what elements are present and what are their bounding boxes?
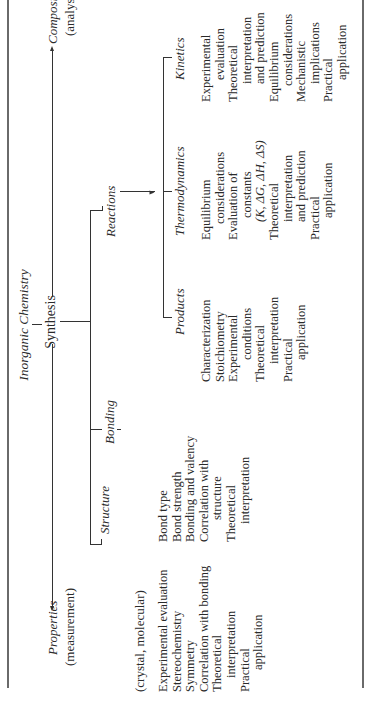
list-item-cont: considerations — [282, 12, 296, 102]
thermodynamics-label: Thermodynamics — [172, 144, 187, 238]
list-item: Symmetry — [184, 566, 198, 692]
list-item: Theoretical — [254, 297, 268, 382]
list-item: Stoichiometry — [214, 297, 228, 382]
list-item: Correlation with bonding — [198, 566, 212, 692]
list-item: Equilibrium — [268, 12, 282, 102]
products-label: Products — [172, 287, 187, 337]
list-item-cont: conditions — [241, 297, 255, 382]
structure-sub: (crystal, molecular) — [132, 590, 147, 692]
list-item: Stereochemistry — [171, 566, 185, 692]
properties-label: Properties — [45, 601, 60, 655]
products-list: Characterization Stoichiometry Experimen… — [200, 297, 309, 382]
structure-label: Structure — [97, 486, 112, 534]
properties-connector — [52, 344, 53, 606]
bonding-label: Bonding — [102, 398, 117, 446]
list-item: Theoretical — [225, 436, 239, 542]
list-item: Bond strength — [171, 436, 185, 542]
list-item: Bond type — [157, 436, 171, 542]
list-item-cont: and prediction — [254, 12, 268, 102]
list-item: Evaluation of — [227, 140, 241, 240]
reactions-arrow-icon — [150, 191, 155, 195]
list-item-cont: interpretation — [241, 12, 255, 102]
top-rule — [7, 0, 9, 688]
list-item: Equilibrium — [200, 140, 214, 240]
root-label: Inorganic Chemistry — [16, 269, 31, 381]
list-item: Practical — [282, 297, 296, 382]
list-item-cont: application — [322, 140, 336, 240]
list-item-cont: interpretation — [225, 566, 239, 692]
list-item: Practical — [322, 12, 336, 102]
list-item-cont: structure — [211, 436, 225, 542]
list-item: Experimental evaluation — [157, 566, 171, 692]
list-item-cont: interpretation — [239, 436, 253, 542]
list-item: Theoretical — [211, 566, 225, 692]
reactions-spine — [163, 58, 164, 318]
composition-connector — [52, 50, 53, 297]
list-item-cont: evaluation — [214, 12, 228, 102]
list-item-cont: interpretation — [282, 140, 296, 240]
list-item: Mechanistic — [295, 12, 309, 102]
list-item: Bonding and valency — [184, 436, 198, 542]
list-item: Experimental — [227, 297, 241, 382]
list-item-cont: interpretation — [268, 297, 282, 382]
kinetics-label: Kinetics — [172, 35, 187, 82]
list-item: Practical — [239, 566, 253, 692]
reactions-label: Reactions — [103, 186, 118, 237]
structure-tick — [101, 539, 102, 545]
kinetics-list: Experimental evaluation Theoretical inte… — [200, 12, 350, 102]
list-item-cont: (K, ΔG, ΔH, ΔS) — [254, 140, 268, 240]
composition-label: Composition — [45, 0, 60, 44]
list-item: Characterization — [200, 297, 214, 382]
diagram-page: Inorganic Chemistry Synthesis Properties… — [0, 0, 375, 702]
structure-list: Experimental evaluation Stereochemistry … — [157, 566, 266, 692]
root-connector — [32, 324, 42, 325]
properties-sub: (measurement) — [62, 588, 77, 666]
list-item-cont: constants — [241, 140, 255, 240]
bonding-list: Bond type Bond strength Bonding and vale… — [157, 436, 252, 542]
list-item-cont: application — [295, 297, 309, 382]
thermodynamics-list: Equilibrium considerations Evaluation of… — [200, 140, 336, 240]
list-item-cont: application — [252, 566, 266, 692]
composition-sub: (analysis) — [62, 0, 77, 36]
list-item: Experimental — [200, 12, 214, 102]
list-item-cont: implications — [309, 12, 323, 102]
list-item-cont: considerations — [214, 140, 228, 240]
synthesis-down-connector — [60, 321, 90, 322]
composition-arrow-icon — [50, 46, 54, 51]
list-item-cont: and prediction — [295, 140, 309, 240]
synthesis-spine — [90, 211, 91, 545]
list-item: Theoretical — [268, 140, 282, 240]
list-item: Theoretical — [227, 12, 241, 102]
list-item-cont: application — [336, 12, 350, 102]
list-item: Practical — [309, 140, 323, 240]
list-item: Correlation with — [198, 436, 212, 542]
bottom-rule — [362, 0, 364, 688]
synthesis-label: Synthesis — [43, 295, 58, 349]
